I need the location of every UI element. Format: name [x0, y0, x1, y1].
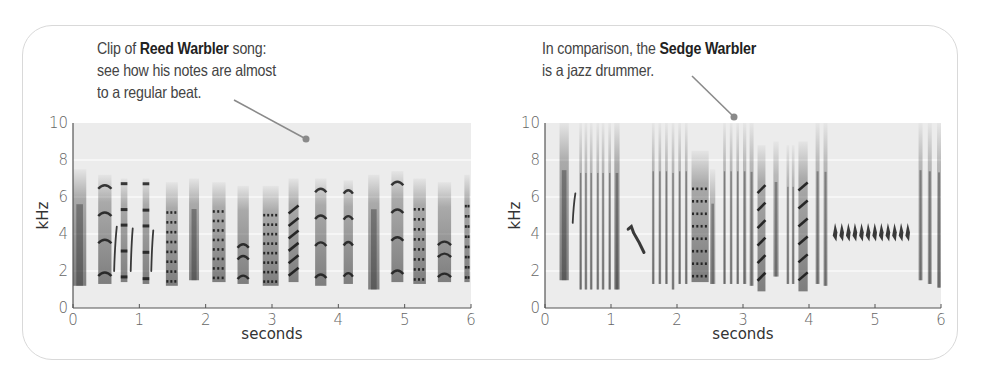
y-tick-label: 6 — [530, 188, 540, 206]
song-note — [391, 171, 403, 282]
song-note — [792, 145, 795, 284]
song-note — [758, 145, 766, 291]
song-note — [824, 123, 828, 286]
song-note — [368, 175, 379, 290]
song-note — [602, 123, 605, 290]
song-note — [937, 123, 941, 288]
song-note — [743, 123, 746, 284]
song-note — [652, 123, 655, 284]
song-note — [672, 123, 675, 290]
song-note — [189, 179, 199, 281]
x-tick-label: 2 — [672, 311, 682, 329]
song-note — [730, 123, 733, 284]
y-tick-label: 0 — [58, 299, 68, 317]
sedge-warbler-spectrogram: 01234560246810secondskHz — [506, 114, 946, 343]
y-tick-label: 6 — [58, 188, 68, 206]
song-note — [710, 169, 715, 284]
song-note — [816, 123, 820, 284]
spectrogram-canvas: 01234560246810secondskHz 01234560246810s… — [0, 0, 987, 378]
song-note — [73, 169, 86, 286]
pointer-dot — [731, 114, 738, 121]
song-note — [121, 179, 128, 283]
song-note — [344, 180, 353, 284]
song-note — [685, 123, 688, 284]
y-tick-label: 0 — [530, 299, 540, 317]
x-tick-label: 4 — [334, 311, 344, 329]
y-axis-label: kHz — [34, 201, 52, 229]
x-tick-label: 0 — [540, 311, 550, 329]
pointer-dot — [303, 136, 310, 143]
song-note — [143, 179, 150, 284]
song-note — [750, 123, 754, 286]
song-note — [238, 186, 249, 284]
x-tick-label: 2 — [201, 311, 211, 329]
x-tick-label: 6 — [936, 311, 946, 329]
x-tick-label: 0 — [68, 311, 78, 329]
song-note — [787, 145, 790, 284]
song-note — [212, 182, 225, 282]
y-tick-label: 10 — [521, 114, 540, 132]
song-note — [665, 123, 668, 284]
x-tick-label: 1 — [606, 311, 616, 329]
y-tick-label: 8 — [530, 151, 540, 169]
song-note — [596, 123, 599, 290]
song-note — [659, 123, 662, 284]
y-tick-label: 8 — [58, 151, 68, 169]
song-note — [413, 179, 426, 284]
x-tick-label: 5 — [870, 311, 880, 329]
song-note — [678, 123, 681, 284]
song-note — [798, 142, 807, 292]
song-note — [614, 123, 619, 290]
y-tick-label: 10 — [49, 114, 68, 132]
y-tick-label: 4 — [58, 225, 68, 243]
song-note — [736, 123, 739, 284]
song-note — [464, 175, 469, 282]
x-tick-label: 5 — [400, 311, 410, 329]
x-axis-label: seconds — [241, 325, 302, 343]
song-note — [560, 123, 569, 280]
x-tick-label: 6 — [466, 311, 476, 329]
song-note — [608, 123, 611, 290]
song-note — [98, 175, 111, 284]
y-tick-label: 2 — [530, 262, 540, 280]
song-note — [692, 151, 709, 282]
song-note — [919, 123, 923, 280]
x-axis-label: seconds — [712, 325, 773, 343]
song-note — [928, 123, 932, 284]
y-tick-label: 4 — [530, 225, 540, 243]
song-note — [289, 179, 299, 283]
y-axis-label: kHz — [506, 201, 524, 229]
song-note — [590, 123, 593, 290]
x-tick-label: 4 — [804, 311, 814, 329]
song-note — [263, 186, 279, 286]
song-note — [166, 182, 178, 286]
song-note — [438, 182, 451, 282]
song-note — [585, 123, 588, 290]
song-note — [723, 123, 726, 284]
x-tick-label: 1 — [135, 311, 145, 329]
song-note — [773, 142, 778, 277]
pointer-line — [692, 76, 734, 117]
reed-warbler-spectrogram: 01234560246810secondskHz — [34, 114, 476, 343]
song-note — [579, 123, 582, 290]
song-note — [315, 179, 326, 286]
y-tick-label: 2 — [58, 262, 68, 280]
